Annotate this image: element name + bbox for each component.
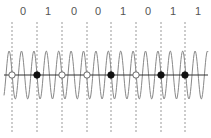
filled-circle-marker	[108, 72, 114, 78]
waveform-plot	[0, 0, 211, 138]
filled-circle-marker	[34, 72, 40, 78]
signal-diagram: 0 1 0 0 1 0 1 1	[0, 0, 211, 138]
open-circle-marker	[9, 72, 15, 78]
open-circle-marker	[84, 72, 90, 78]
filled-circle-marker	[182, 72, 188, 78]
filled-circle-marker	[158, 72, 164, 78]
open-circle-marker	[133, 72, 139, 78]
open-circle-marker	[59, 72, 65, 78]
